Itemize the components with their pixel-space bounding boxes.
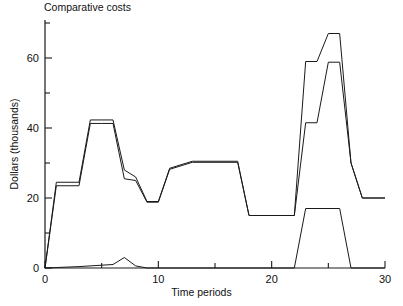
x-axis-label: Time periods	[0, 286, 403, 298]
series-lower-cost-curve	[45, 209, 385, 269]
y-tick-label-60: 60	[27, 52, 39, 64]
x-tick-label-20: 20	[266, 273, 278, 285]
chart-plot-area: 02040600102030	[0, 0, 403, 306]
x-tick-label-0: 0	[42, 273, 48, 285]
y-tick-label-20: 20	[27, 192, 39, 204]
series-upper-cost-curve-a	[45, 34, 385, 269]
chart-figure: Comparative costs 02040600102030 Dollars…	[0, 0, 403, 306]
x-tick-label-10: 10	[152, 273, 164, 285]
y-tick-label-0: 0	[33, 262, 39, 274]
chart-axes	[45, 20, 385, 268]
x-tick-label-30: 30	[379, 273, 391, 285]
y-tick-label-40: 40	[27, 122, 39, 134]
series-upper-cost-curve-b	[45, 62, 385, 268]
y-axis-label: Dollars (thousands)	[8, 84, 20, 204]
